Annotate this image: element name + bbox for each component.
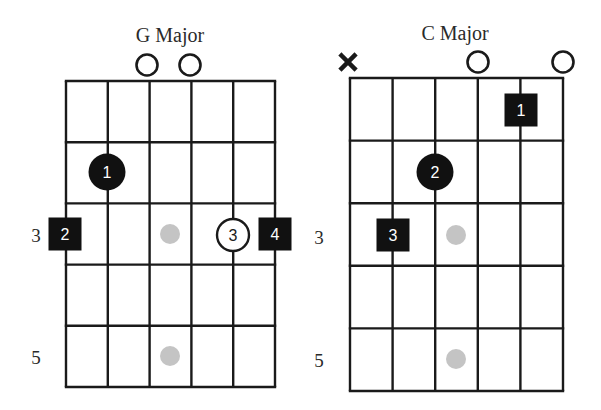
open-string-icon bbox=[553, 52, 574, 73]
background bbox=[0, 0, 601, 410]
open-string-icon bbox=[180, 55, 201, 76]
fret-number-label: 3 bbox=[31, 225, 41, 246]
finger-number: 2 bbox=[431, 164, 440, 181]
inlay-dot bbox=[160, 346, 180, 366]
finger-marker-2: 2 bbox=[49, 218, 82, 251]
finger-marker-1: 1 bbox=[89, 154, 126, 191]
inlay-dot bbox=[160, 224, 180, 244]
chord-diagrams: G Major 35 1234 C Major 35 123 bbox=[0, 0, 601, 410]
finger-marker-3: 3 bbox=[217, 219, 249, 251]
chart-title: C Major bbox=[421, 22, 489, 45]
finger-marker-2: 2 bbox=[417, 154, 454, 191]
finger-number: 3 bbox=[389, 227, 398, 244]
finger-number: 1 bbox=[517, 102, 526, 119]
finger-number: 3 bbox=[229, 227, 238, 244]
finger-number: 2 bbox=[61, 226, 70, 243]
finger-marker-4: 4 bbox=[259, 218, 292, 251]
finger-number: 1 bbox=[103, 164, 112, 181]
open-string-icon bbox=[137, 55, 158, 76]
chart-title: G Major bbox=[136, 24, 205, 47]
fret-number-label: 3 bbox=[314, 227, 324, 248]
finger-marker-3: 3 bbox=[377, 219, 410, 252]
fret-number-label: 5 bbox=[31, 347, 41, 368]
fret-number-label: 5 bbox=[314, 350, 324, 371]
inlay-dot bbox=[446, 225, 466, 245]
inlay-dot bbox=[446, 349, 466, 369]
open-string-icon bbox=[468, 52, 489, 73]
finger-marker-1: 1 bbox=[505, 94, 538, 127]
finger-number: 4 bbox=[271, 226, 280, 243]
